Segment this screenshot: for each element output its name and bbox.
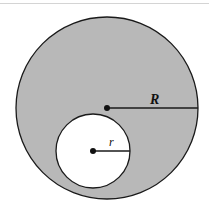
- outer-center-dot: [104, 105, 110, 111]
- inner-radius-label: r: [109, 135, 114, 149]
- inner-center-dot: [90, 148, 96, 154]
- outer-radius-label: R: [149, 92, 159, 107]
- circles-diagram: R r: [0, 0, 209, 213]
